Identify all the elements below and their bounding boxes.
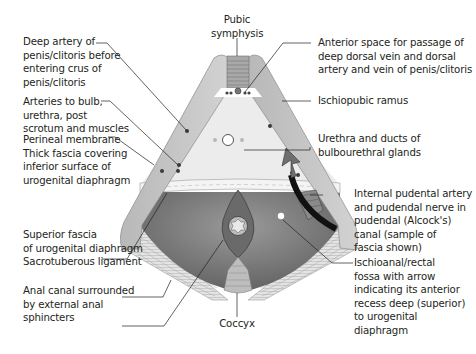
pubic-symphysis bbox=[227, 56, 249, 88]
label-coccyx: Coccyx bbox=[211, 317, 263, 331]
label-superior-fascia: Superior fascia of urogenital diaphragm bbox=[23, 228, 143, 255]
ischioanal-fossa-marker bbox=[278, 213, 284, 219]
label-perineal-membrane: Perineal membrane Thick fascia covering … bbox=[23, 133, 130, 187]
label-urethra: Urethra and ducts of bulbourethral gland… bbox=[318, 132, 421, 159]
label-deep-artery: Deep artery of penis/clitoris before ent… bbox=[23, 35, 120, 89]
label-arteries-to-bulb: Arteries to bulb, urethra, post scrotum … bbox=[23, 95, 129, 136]
label-ischioanal-fossa: Ischioanal/rectal fossa with arrow indic… bbox=[354, 256, 465, 338]
label-anal-canal: Anal canal surrounded by external anal s… bbox=[23, 284, 134, 325]
label-ischiopubic-ramus: Ischiopubic ramus bbox=[318, 94, 408, 108]
label-internal-pudendal: Internal pudental artery and pudendal ne… bbox=[354, 187, 472, 255]
label-pubic-symphysis: Pubic symphysis bbox=[211, 13, 263, 40]
label-sacrotuberous-ligament: Sacrotuberous ligament bbox=[23, 255, 142, 269]
perineum-diagram: Pubic symphysis Deep artery of penis/cli… bbox=[0, 0, 476, 354]
label-anterior-space: Anterior space for passage of deep dorsa… bbox=[318, 36, 472, 77]
